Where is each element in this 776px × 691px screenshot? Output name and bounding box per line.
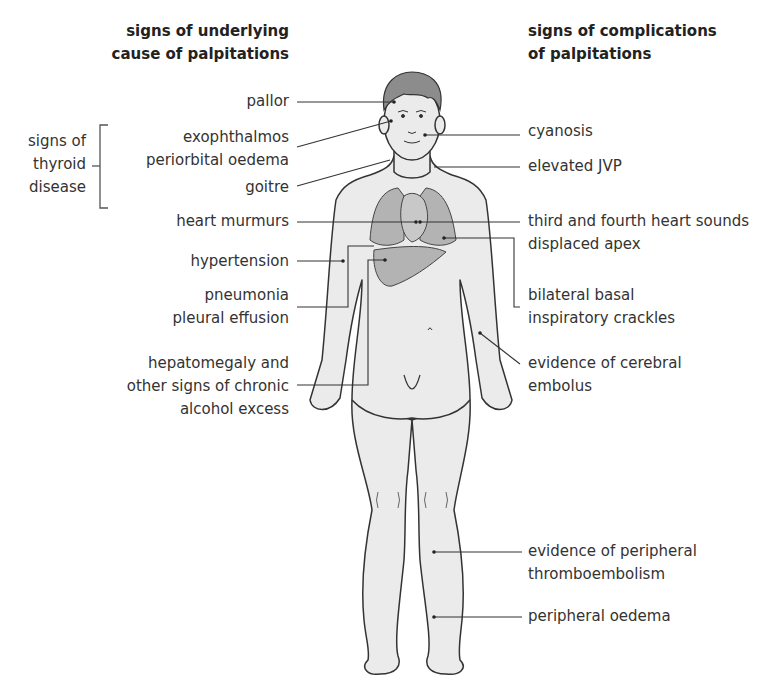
body-figure [0,0,776,691]
human-body-outline [310,84,512,674]
thyroid-bracket [92,125,108,208]
